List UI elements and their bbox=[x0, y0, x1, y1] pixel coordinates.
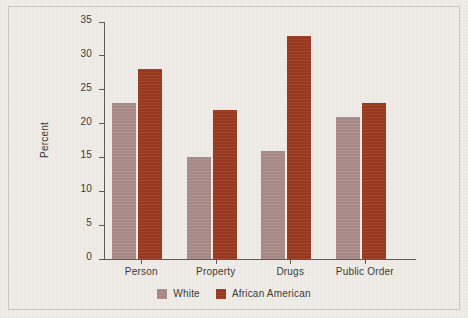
x-axis-category-label: Property bbox=[196, 266, 235, 277]
x-axis-category-label: Person bbox=[125, 266, 158, 277]
bar-white-person bbox=[112, 103, 136, 259]
y-axis-tick-mark bbox=[99, 157, 104, 158]
bar-african-american-public-order bbox=[362, 103, 386, 259]
y-axis-tick-label: 25 bbox=[80, 82, 92, 93]
y-axis-tick-label: 20 bbox=[80, 116, 92, 127]
y-axis-tick-mark bbox=[99, 259, 104, 260]
legend-item-label: African American bbox=[232, 288, 311, 299]
bar-african-american-drugs bbox=[287, 36, 311, 259]
bar-white-drugs bbox=[261, 151, 285, 259]
x-axis-category-label: Drugs bbox=[276, 266, 304, 277]
legend-item: African American bbox=[216, 288, 311, 299]
bar-group bbox=[187, 22, 237, 259]
y-axis-tick-mark bbox=[99, 225, 104, 226]
legend-item-label: White bbox=[173, 288, 200, 299]
y-axis-tick-label: 30 bbox=[80, 48, 92, 59]
y-axis-tick-mark bbox=[99, 55, 104, 56]
bar-group bbox=[336, 22, 386, 259]
bar-white-public-order bbox=[336, 117, 360, 259]
y-axis-tick-mark bbox=[99, 191, 104, 192]
y-axis-tick-mark bbox=[99, 123, 104, 124]
bar-african-american-property bbox=[213, 110, 237, 259]
plot-area: 05101520253035 bbox=[104, 22, 402, 259]
legend-item: White bbox=[157, 288, 200, 299]
chart-legend: WhiteAfrican American bbox=[0, 288, 468, 299]
x-axis-tick-mark bbox=[141, 259, 142, 264]
x-axis-category-label: Public Order bbox=[336, 266, 394, 277]
y-axis-title: Percent bbox=[39, 122, 50, 158]
x-axis-line bbox=[104, 259, 416, 260]
y-axis-tick-mark bbox=[99, 22, 104, 23]
bar-group bbox=[112, 22, 162, 259]
y-axis-tick-label: 10 bbox=[80, 183, 92, 194]
x-axis-tick-mark bbox=[290, 259, 291, 264]
legend-swatch-white bbox=[157, 289, 167, 299]
bar-group bbox=[261, 22, 311, 259]
bar-african-american-person bbox=[138, 69, 162, 259]
bar-white-property bbox=[187, 157, 211, 259]
x-axis-tick-mark bbox=[365, 259, 366, 264]
y-axis-tick-label: 15 bbox=[80, 149, 92, 160]
legend-swatch-african-american bbox=[216, 289, 226, 299]
x-axis-tick-mark bbox=[216, 259, 217, 264]
bar-chart-figure: Percent 05101520253035 PersonPropertyDru… bbox=[0, 0, 468, 318]
y-axis-tick-label: 35 bbox=[80, 14, 92, 25]
y-axis-tick-mark bbox=[99, 89, 104, 90]
y-axis-tick-label: 5 bbox=[86, 217, 92, 228]
y-axis-tick-label: 0 bbox=[86, 251, 92, 262]
